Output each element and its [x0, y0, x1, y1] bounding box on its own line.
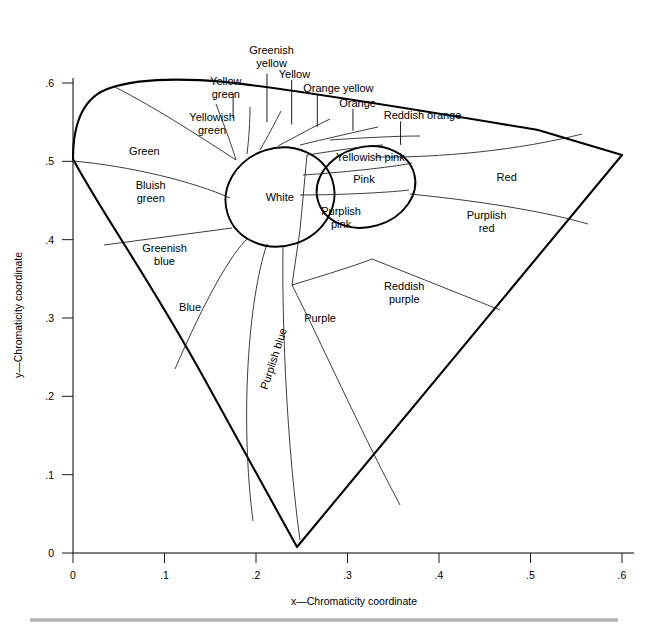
divider-orange-reddishorange — [330, 136, 420, 140]
region-label-blue: Blue — [179, 301, 201, 313]
region-label-line: purple — [389, 293, 420, 305]
callout-label-line: Yellow — [279, 68, 310, 80]
y-axis-ticks — [62, 83, 73, 553]
region-label-line: Green — [129, 145, 160, 157]
x-axis-title: x—Chromaticity coordinate — [291, 595, 417, 607]
x-tick-label-3: .3 — [343, 569, 352, 581]
region-label-yellowish-green: Yellowishgreen — [189, 111, 234, 136]
x-axis-ticks — [73, 553, 622, 563]
chromaticity-figure: 0.1.2.3.4.5.6 0.1.2.3.4.5.6 — [0, 0, 648, 627]
callout-label-greenish-yellow: Greenishyellow — [249, 44, 294, 69]
x-tick-label-4: .4 — [435, 569, 444, 581]
y-axis-tick-labels: 0.1.2.3.4.5.6 — [45, 77, 54, 559]
y-axis-title: y—Chromaticity coordinate — [12, 252, 24, 378]
region-label-red: Red — [497, 171, 517, 183]
region-label-line: Purple — [304, 312, 336, 324]
x-tick-label-1: .1 — [160, 569, 169, 581]
callout-labels: YellowgreenGreenishyellowYellowOrange ye… — [210, 44, 461, 121]
region-label-line: green — [198, 124, 226, 136]
callout-label-line: Reddish orange — [384, 109, 462, 121]
callout-label-yellow-green: Yellowgreen — [210, 75, 241, 100]
region-label-line: Purplish — [467, 209, 507, 221]
callout-label-line: Orange yellow — [303, 82, 373, 94]
divider-greenishyellow-yellow — [260, 111, 281, 150]
divider-red-reddishorange — [375, 134, 582, 157]
y-tick-label-4: .4 — [45, 234, 54, 246]
region-label-line: White — [266, 191, 294, 203]
y-tick-label-3: .3 — [45, 312, 54, 324]
y-tick-label-2: .2 — [45, 390, 54, 402]
y-tick-label-6: .6 — [45, 77, 54, 89]
y-tick-label-1: .1 — [45, 469, 54, 481]
divider-yellowgreen-greenishyellow — [247, 107, 250, 154]
callout-label-line: Orange — [339, 97, 376, 109]
region-label-line: red — [479, 222, 495, 234]
region-label-green: Green — [129, 145, 160, 157]
region-label-bluish-green: Bluishgreen — [136, 179, 166, 204]
region-label-greenish-blue: Greenishblue — [142, 242, 187, 267]
x-tick-label-2: .2 — [252, 569, 261, 581]
callout-label-reddish-orange: Reddish orange — [384, 109, 462, 121]
callout-label-orange: Orange — [339, 97, 376, 109]
region-label-yellowish-pink: Yellowish pink — [336, 151, 405, 163]
y-tick-label-5: .5 — [45, 155, 54, 167]
callout-label-line: green — [212, 88, 240, 100]
divider-purplishpink-reddishpurple — [292, 259, 372, 285]
region-label-line: pink — [331, 218, 352, 230]
region-label-line: Greenish — [142, 242, 187, 254]
divider-purplishblue-purple — [283, 246, 300, 540]
region-label-purplish-red: Purplishred — [467, 209, 507, 234]
region-label-line: green — [137, 192, 165, 204]
callout-label-yellow: Yellow — [279, 68, 310, 80]
region-label-pink: Pink — [353, 173, 375, 185]
region-label-line: Yellowish — [189, 111, 234, 123]
region-label-purple: Purple — [304, 312, 336, 324]
region-label-line: Yellowish pink — [336, 151, 405, 163]
divider-orangeyellow-orange — [300, 127, 378, 145]
region-label-line: Bluish — [136, 179, 166, 191]
x-axis-tick-labels: 0.1.2.3.4.5.6 — [70, 569, 626, 581]
region-label-line: Purplish — [321, 205, 361, 217]
region-label-line: Pink — [353, 173, 375, 185]
region-label-line: Red — [497, 171, 517, 183]
callout-label-orange-yellow: Orange yellow — [303, 82, 373, 94]
chromaticity-diagram: 0.1.2.3.4.5.6 0.1.2.3.4.5.6 — [0, 0, 648, 627]
divider-yellow-orangeyellow — [278, 119, 330, 146]
region-label-line: blue — [154, 255, 175, 267]
x-tick-label-6: .6 — [618, 569, 627, 581]
callout-label-line: Greenish — [249, 44, 294, 56]
region-label-line: Reddish — [384, 280, 424, 292]
x-tick-label-0: 0 — [70, 569, 76, 581]
region-label-white: White — [266, 191, 294, 203]
x-tick-label-5: .5 — [526, 569, 535, 581]
region-label-line: Blue — [179, 301, 201, 313]
region-label-line: Purplish blue — [258, 327, 289, 391]
callout-label-line: Yellow — [210, 75, 241, 87]
y-tick-label-0: 0 — [48, 547, 54, 559]
region-label-reddish-purple: Reddishpurple — [384, 280, 424, 305]
region-label-purplish-blue: Purplish blue — [258, 327, 289, 391]
